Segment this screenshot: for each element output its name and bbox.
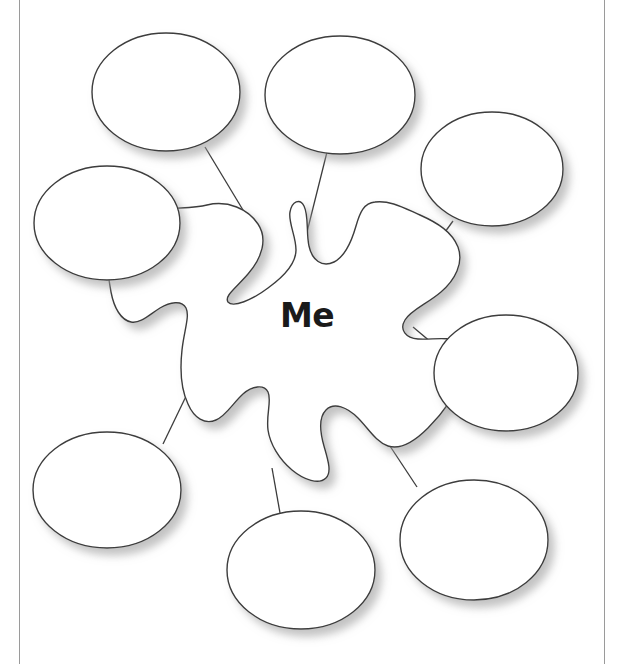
bubble-outline[interactable]	[227, 511, 375, 629]
bubble-outline[interactable]	[265, 36, 415, 154]
bubble-right-middle[interactable]	[434, 315, 578, 431]
bubble-outline[interactable]	[34, 166, 180, 280]
graphic-organizer-diagram	[0, 0, 617, 664]
bubble-outline[interactable]	[400, 480, 548, 600]
bubble-bottom-right[interactable]	[400, 480, 548, 600]
bubble-top-left[interactable]	[92, 33, 240, 151]
bubble-outline[interactable]	[33, 432, 181, 548]
worksheet-page: Me	[0, 0, 617, 664]
bubble-left-middle[interactable]	[34, 166, 180, 280]
bubble-top-right[interactable]	[265, 36, 415, 154]
bubble-outline[interactable]	[92, 33, 240, 151]
bubble-bottom-left[interactable]	[33, 432, 181, 548]
bubble-outline[interactable]	[421, 112, 563, 226]
connector-bottom-center	[272, 468, 280, 513]
bubble-outline[interactable]	[434, 315, 578, 431]
bubble-right-upper[interactable]	[421, 112, 563, 226]
bubble-bottom-center[interactable]	[227, 511, 375, 629]
